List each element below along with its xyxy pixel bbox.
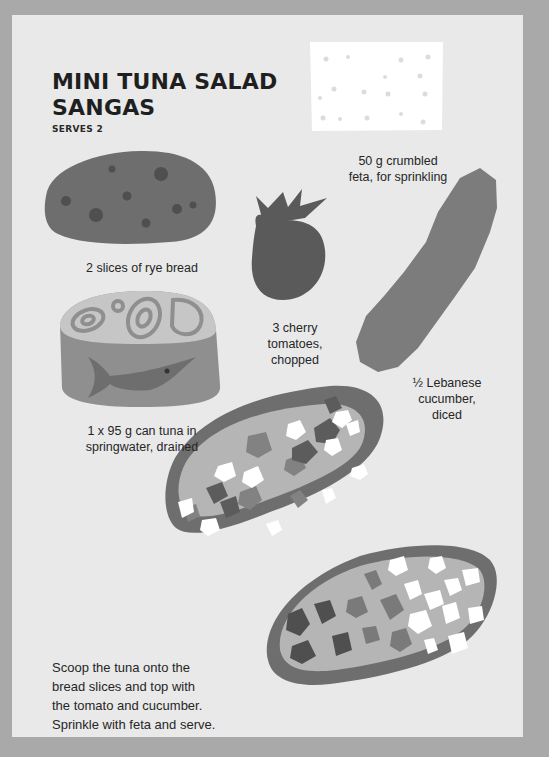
cucumber-caption: ½ Lebanese cucumber, diced <box>392 375 502 423</box>
title-line-2: SANGAS <box>52 95 155 120</box>
feta-caption-line-2: feta, for sprinkling <box>349 170 448 184</box>
tuna-can-icon <box>60 291 220 407</box>
cucumber-caption-line-2: cucumber, <box>418 392 476 406</box>
tomato-caption: 3 cherry tomatoes, chopped <box>245 320 345 368</box>
rye-bread-caption: 2 slices of rye bread <box>57 260 227 276</box>
feta-caption: 50 g crumbled feta, for sprinkling <box>328 153 468 185</box>
rye-bread-slice-icon <box>45 151 216 244</box>
sandwich-1-illustration <box>165 386 383 536</box>
method-line-2: bread slices and top with <box>52 679 195 694</box>
method-line-1: Scoop the tuna onto the <box>52 660 190 675</box>
feta-caption-line-1: 50 g crumbled <box>358 154 437 168</box>
tomato-caption-line-2: tomatoes, <box>268 337 323 351</box>
tuna-caption: 1 x 95 g can tuna in springwater, draine… <box>52 423 232 455</box>
method-text: Scoop the tuna onto the bread slices and… <box>52 658 282 734</box>
rye-bread-caption-line-1: 2 slices of rye bread <box>86 261 198 275</box>
feta-block-icon <box>310 42 443 131</box>
method-line-4: Sprinkle with feta and serve. <box>52 717 215 732</box>
tuna-caption-line-2: springwater, drained <box>86 440 199 454</box>
title-line-1: MINI TUNA SALAD <box>52 69 277 94</box>
tuna-caption-line-1: 1 x 95 g can tuna in <box>87 424 196 438</box>
cherry-tomato-icon <box>252 189 327 300</box>
cucumber-icon <box>356 168 497 372</box>
cucumber-caption-line-3: diced <box>432 408 462 422</box>
method-line-3: the tomato and cucumber. <box>52 698 202 713</box>
recipe-page: MINI TUNA SALAD SANGAS SERVES 2 50 g cru… <box>12 15 523 737</box>
serves-label: SERVES 2 <box>52 124 103 134</box>
tomato-caption-line-3: chopped <box>271 353 319 367</box>
recipe-title: MINI TUNA SALAD SANGAS <box>52 69 277 121</box>
tomato-caption-line-1: 3 cherry <box>272 321 317 335</box>
sandwich-2-illustration <box>267 545 497 685</box>
cucumber-caption-line-1: ½ Lebanese <box>413 376 482 390</box>
